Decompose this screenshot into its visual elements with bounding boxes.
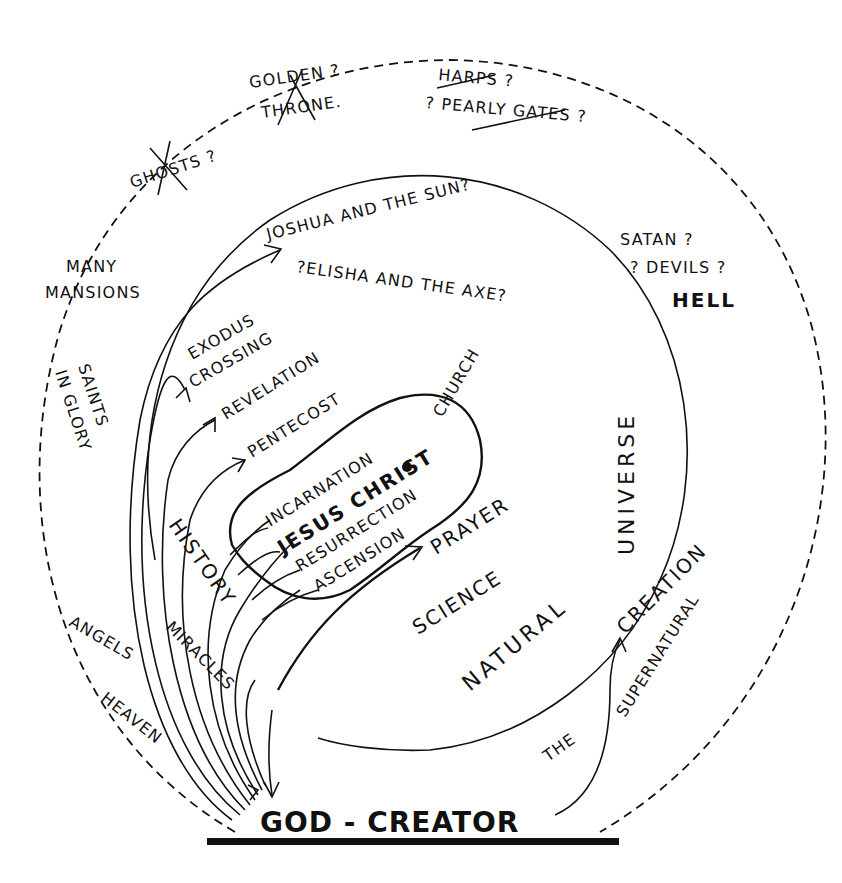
label-god-creator: GOD - CREATOR xyxy=(260,806,519,839)
label-ghosts: GHOSTS ? xyxy=(127,146,219,192)
base-bar xyxy=(207,838,619,845)
label-angels: ANGELS xyxy=(66,612,138,664)
label-elisha-and-the-axe: ?ELISHA AND THE AXE? xyxy=(295,257,508,305)
supernatural-diagram: GHOSTS ? GOLDEN ? THRONE. HARPS ? ? PEAR… xyxy=(0,0,842,883)
label-satan: SATAN ? xyxy=(620,230,694,249)
label-many: MANY xyxy=(66,257,117,276)
label-prayer: PRAYER xyxy=(426,492,513,559)
label-hell: HELL xyxy=(672,288,736,312)
label-throne: THRONE. xyxy=(259,92,343,122)
label-science: SCIENCE xyxy=(408,565,506,639)
label-harps: HARPS ? xyxy=(438,65,515,91)
label-natural: NATURAL xyxy=(457,594,572,696)
label-miracles: MIRACLES xyxy=(162,617,239,694)
label-universe: UNIVERSE xyxy=(614,412,639,555)
label-joshua-and-the-sun: JOSHUA AND THE SUN? xyxy=(263,175,472,244)
label-heaven: HEAVEN xyxy=(98,688,167,747)
label-mansions: MANSIONS xyxy=(45,283,141,302)
god-to-creation-arrow xyxy=(555,640,620,815)
label-the: THE xyxy=(539,729,580,766)
label-devils: ? DEVILS ? xyxy=(630,258,726,277)
label-church: CHURCH xyxy=(429,345,483,420)
jesus-christ-dot xyxy=(402,462,412,472)
